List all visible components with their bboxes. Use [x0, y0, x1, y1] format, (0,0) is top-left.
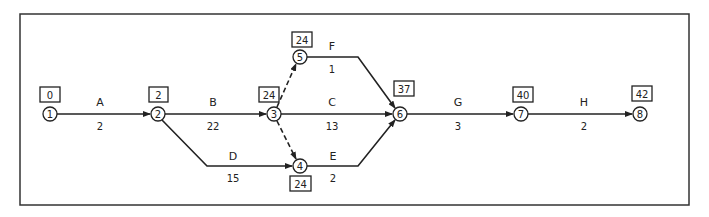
activity-d-label: D	[229, 150, 237, 163]
activity-e-arrow	[307, 120, 395, 166]
activity-d-duration: 15	[227, 173, 240, 184]
activity-f-duration: 1	[329, 64, 335, 75]
activity-g-duration: 3	[455, 121, 461, 132]
node-6: 6 37	[393, 81, 414, 121]
node-5-label: 5	[297, 52, 303, 63]
node-7-time: 40	[517, 90, 530, 101]
activity-g-label: G	[454, 96, 463, 109]
node-8-label: 8	[637, 109, 643, 120]
dummy-3-4-arrow	[277, 121, 296, 159]
activity-e-duration: 2	[330, 173, 336, 184]
node-2: 2 2	[149, 87, 168, 121]
node-1-label: 1	[47, 109, 53, 120]
activity-f-label: F	[329, 40, 335, 53]
node-3-time: 24	[263, 90, 276, 101]
activity-h-label: H	[580, 96, 588, 109]
node-7: 7 40	[513, 87, 533, 121]
activity-b-duration: 22	[207, 121, 220, 132]
activity-b-label: B	[209, 96, 217, 109]
activity-h-duration: 2	[581, 121, 587, 132]
node-6-time: 37	[398, 84, 411, 95]
node-5-time: 24	[296, 35, 309, 46]
activity-c-duration: 13	[326, 121, 339, 132]
activity-f-arrow	[307, 57, 395, 108]
diagram-frame	[20, 14, 689, 205]
node-8-time: 42	[636, 89, 649, 100]
node-4: 4 24	[290, 159, 311, 191]
dummy-3-5-arrow	[277, 64, 296, 107]
node-2-label: 2	[155, 109, 161, 120]
node-2-time: 2	[155, 90, 161, 101]
activity-d-arrow	[162, 120, 292, 166]
node-4-label: 4	[297, 161, 303, 172]
node-4-time: 24	[294, 179, 307, 190]
node-3-label: 3	[271, 109, 277, 120]
activity-a-duration: 2	[97, 121, 103, 132]
node-8: 8 42	[632, 86, 652, 121]
node-6-label: 6	[397, 109, 403, 120]
activity-c-label: C	[328, 96, 336, 109]
network-diagram: A 2 B 22 D 15 C 13 F 1 E 2 G 3 H 2 1 0 2…	[0, 0, 709, 217]
node-1: 1 0	[40, 87, 60, 121]
node-5: 5 24	[292, 32, 312, 64]
node-7-label: 7	[518, 109, 524, 120]
activity-e-label: E	[330, 150, 337, 163]
activity-a-label: A	[96, 96, 104, 109]
node-1-time: 0	[47, 90, 53, 101]
